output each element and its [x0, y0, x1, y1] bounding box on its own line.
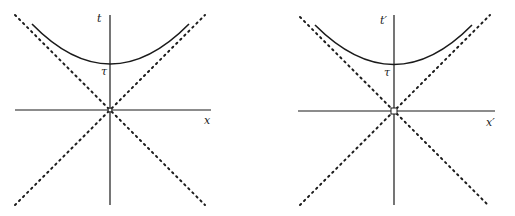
t-axis-label: t	[97, 12, 102, 25]
spacetime-diagrams: t τ x t′ τ x′	[0, 0, 515, 216]
tau-label: τ	[101, 65, 108, 78]
origin-marker	[391, 108, 397, 114]
tau-label: τ	[384, 66, 391, 79]
left-spacetime-diagram: t τ x	[15, 12, 211, 205]
t-prime-axis-label: t′	[380, 14, 387, 27]
right-spacetime-diagram: t′ τ x′	[298, 14, 495, 205]
origin-marker	[108, 108, 112, 112]
x-prime-axis-label: x′	[486, 116, 495, 129]
x-axis-label: x	[204, 114, 211, 127]
